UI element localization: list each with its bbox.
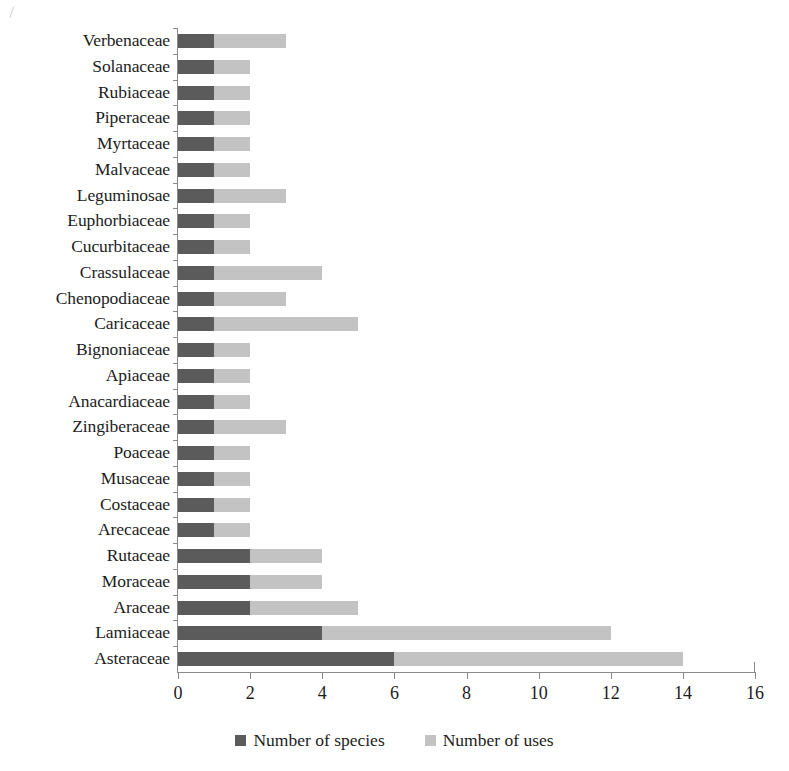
y-axis-tick [173, 286, 178, 287]
stacked-bar [178, 523, 755, 537]
legend-swatch-icon [425, 735, 436, 746]
bar-segment [214, 137, 250, 151]
legend-swatch-icon [235, 735, 246, 746]
stacked-bar [178, 446, 755, 460]
bar-row [178, 105, 755, 131]
stacked-bar [178, 549, 755, 563]
y-axis-label: Apiaceae [0, 363, 170, 389]
stacked-bar [178, 369, 755, 383]
bar-row [178, 80, 755, 106]
bar-row [178, 440, 755, 466]
y-axis-tick [173, 157, 178, 158]
y-axis-label: Costaceae [0, 492, 170, 518]
y-axis-label: Poaceae [0, 440, 170, 466]
x-axis-tick-label: 0 [158, 681, 198, 705]
y-axis-tick [173, 389, 178, 390]
y-axis-tick [173, 208, 178, 209]
y-axis-tick [173, 260, 178, 261]
bar-row [178, 311, 755, 337]
legend-item[interactable]: Number of uses [425, 729, 554, 751]
bar-segment [394, 652, 683, 666]
bar-segment [178, 214, 214, 228]
y-axis-label: Moraceae [0, 569, 170, 595]
bar-segment [178, 60, 214, 74]
y-axis-label: Rutaceae [0, 543, 170, 569]
stacked-bar [178, 601, 755, 615]
y-axis-label: Crassulaceae [0, 260, 170, 286]
x-axis-tick [394, 672, 395, 679]
bar-segment [250, 575, 322, 589]
y-axis-tick [173, 595, 178, 596]
bar-segment [178, 369, 214, 383]
stacked-bar [178, 420, 755, 434]
bar-row [178, 363, 755, 389]
scan-artifact: ⁄ [9, 2, 28, 18]
y-axis-label: Asteraceae [0, 646, 170, 672]
y-axis-label: Solanaceae [0, 54, 170, 80]
y-axis-tick [173, 234, 178, 235]
bar-row [178, 595, 755, 621]
bar-segment [250, 549, 322, 563]
y-axis-tick [173, 131, 178, 132]
bar-segment [322, 626, 611, 640]
bar-row [178, 620, 755, 646]
bar-segment [178, 395, 214, 409]
legend-label: Number of uses [443, 729, 554, 751]
x-axis-tick-label: 10 [519, 681, 559, 705]
bar-chart-figure: ⁄ VerbenaceaeSolanaceaeRubiaceaePiperace… [0, 0, 789, 771]
chart-legend: Number of speciesNumber of uses [0, 726, 789, 754]
y-axis-label: Bignoniaceae [0, 337, 170, 363]
legend-item[interactable]: Number of species [235, 729, 384, 751]
y-axis-label: Chenopodiaceae [0, 286, 170, 312]
x-axis-tick [467, 672, 468, 679]
y-axis-label: Leguminosae [0, 183, 170, 209]
bar-segment [178, 626, 322, 640]
bar-segment [214, 369, 250, 383]
bar-segment [214, 472, 250, 486]
x-axis-tick-label: 16 [735, 681, 775, 705]
bar-row [178, 337, 755, 363]
stacked-bar [178, 343, 755, 357]
bar-segment [178, 317, 214, 331]
y-axis-label: Musaceae [0, 466, 170, 492]
x-axis-tick [683, 672, 684, 679]
stacked-bar [178, 163, 755, 177]
x-axis-tick [178, 672, 179, 679]
y-axis-label: Piperaceae [0, 105, 170, 131]
stacked-bar [178, 395, 755, 409]
y-axis-tick [173, 337, 178, 338]
y-axis-tick [173, 440, 178, 441]
y-axis-label: Zingiberaceae [0, 414, 170, 440]
bar-segment [178, 446, 214, 460]
y-axis-tick [173, 414, 178, 415]
bar-segment [214, 343, 250, 357]
y-axis-label: Cucurbitaceae [0, 234, 170, 260]
y-axis-tick [173, 569, 178, 570]
x-axis-tick-label: 8 [447, 681, 487, 705]
bar-segment [178, 189, 214, 203]
bar-row [178, 183, 755, 209]
bar-segment [214, 317, 358, 331]
legend-label: Number of species [253, 729, 384, 751]
bar-segment [178, 163, 214, 177]
bar-segment [214, 523, 250, 537]
bar-segment [178, 472, 214, 486]
stacked-bar [178, 292, 755, 306]
x-axis-tick-label: 12 [591, 681, 631, 705]
y-axis-tick [173, 28, 178, 29]
bar-segment [178, 523, 214, 537]
bar-segment [250, 601, 358, 615]
bar-row [178, 260, 755, 286]
y-axis-tick [173, 492, 178, 493]
x-axis-tick-label: 4 [302, 681, 342, 705]
bar-row [178, 389, 755, 415]
bar-row [178, 131, 755, 157]
bar-segment [214, 163, 250, 177]
bar-row [178, 28, 755, 54]
bar-segment [178, 240, 214, 254]
y-axis-tick [173, 105, 178, 106]
x-axis-tick [322, 672, 323, 679]
bar-row [178, 54, 755, 80]
x-axis-tick [611, 672, 612, 679]
y-axis-label: Arecaceae [0, 517, 170, 543]
